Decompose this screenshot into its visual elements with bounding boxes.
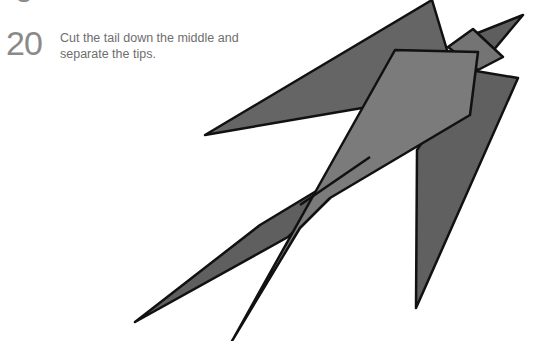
swallow-figure (0, 0, 533, 341)
left-tail (135, 190, 330, 322)
